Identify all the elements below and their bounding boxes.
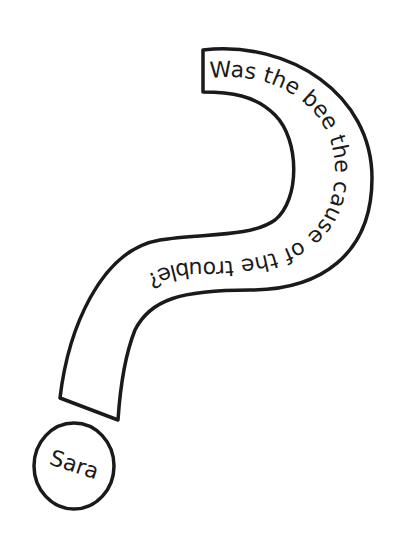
drawing-canvas: Was the bee the cause of the trouble? Sa… <box>0 0 400 548</box>
